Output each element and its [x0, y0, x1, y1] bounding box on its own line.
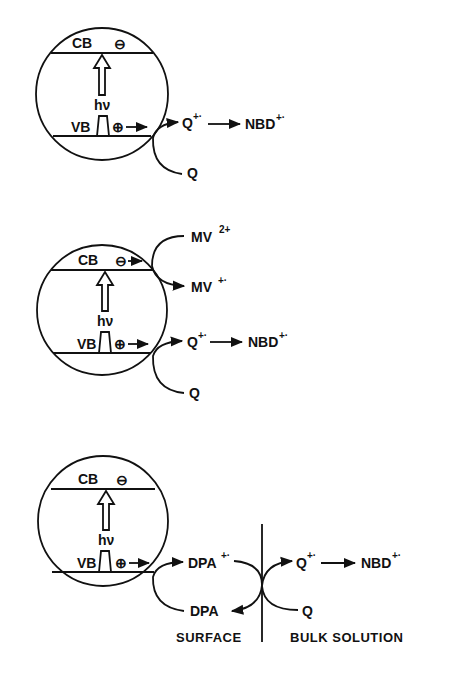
q-radical-cation-sup: +· — [307, 550, 316, 561]
q-radical-cation-sup: +· — [193, 111, 202, 122]
q-radical-cation: Q — [182, 115, 193, 131]
vb-label: VB — [77, 555, 96, 571]
nbd-radical-cation-sup: +· — [276, 112, 285, 123]
hole-well-icon — [99, 551, 111, 572]
nbd-radical-cation-sup: +· — [279, 330, 288, 341]
q-oxidation-curve — [262, 561, 298, 610]
excitation-arrow-icon — [97, 272, 113, 311]
dpa-radical-cation: DPA — [188, 555, 217, 571]
cb-label: CB — [72, 35, 92, 51]
electron-icon: ⊖ — [116, 472, 128, 488]
hole-well-icon — [97, 116, 109, 136]
cb-label: CB — [78, 471, 98, 487]
mv-reactant-sup: 2+ — [219, 224, 231, 235]
photon-label: hν — [97, 313, 114, 329]
hole-well-icon — [99, 332, 111, 353]
nbd-radical-cation: NBD — [361, 555, 391, 571]
q-radical-cation-sup: +· — [198, 330, 207, 341]
surface-label: SURFACE — [176, 630, 242, 645]
mv-radical-cation-sup: +· — [218, 275, 227, 286]
excitation-arrow-icon — [94, 55, 110, 95]
dpa-oxidation-curve — [153, 562, 184, 611]
q-reactant: Q — [189, 385, 200, 401]
semiconductor-particle — [36, 28, 168, 160]
nbd-radical-cation: NBD — [245, 116, 275, 132]
dpa-radical-cation-sup: +· — [221, 550, 230, 561]
panel-3: CB ⊖ hν VB ⊕ DPA +· DPA Q +· NBD +· Q SU… — [38, 456, 403, 645]
panel-2: CB ⊖ hν VB ⊕ MV 2+ MV +· Q +· NBD +· Q — [37, 224, 288, 401]
dpa-regenerated: DPA — [190, 603, 219, 619]
excitation-arrow-icon — [98, 491, 114, 530]
vb-label: VB — [71, 119, 90, 135]
hole-icon: ⊕ — [112, 119, 124, 135]
q-oxidation-curve — [153, 341, 184, 393]
hole-icon: ⊕ — [115, 555, 127, 571]
q-reactant: Q — [187, 165, 198, 181]
panel-1: CB ⊖ hν VB ⊕ Q +· NBD +· Q — [36, 28, 285, 181]
mv-radical-cation: MV — [191, 279, 213, 295]
electron-icon: ⊖ — [114, 36, 126, 52]
mv-reactant: MV — [191, 229, 213, 245]
photocatalysis-diagram: CB ⊖ hν VB ⊕ Q +· NBD +· Q CB ⊖ hν VB ⊕ … — [0, 0, 455, 673]
nbd-radical-cation: NBD — [248, 334, 278, 350]
bulk-solution-label: BULK SOLUTION — [290, 630, 403, 645]
q-radical-cation: Q — [187, 334, 198, 350]
mv-reduction-curve — [152, 236, 184, 286]
vb-label: VB — [77, 336, 96, 352]
photon-label: hν — [98, 532, 115, 548]
dpa-regeneration-curve — [232, 561, 262, 611]
nbd-radical-cation-sup: +· — [392, 550, 401, 561]
hole-icon: ⊕ — [114, 336, 126, 352]
q-radical-cation: Q — [296, 555, 307, 571]
q-reactant: Q — [302, 603, 313, 619]
q-oxidation-curve — [153, 122, 182, 174]
photon-label: hν — [94, 97, 111, 113]
electron-icon: ⊖ — [115, 253, 127, 269]
cb-label: CB — [78, 252, 98, 268]
